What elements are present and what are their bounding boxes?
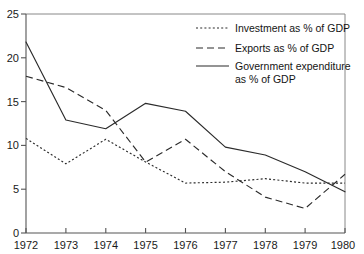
- y-tick-label: 0: [13, 227, 19, 239]
- y-axis-ticks: [21, 14, 26, 233]
- y-tick-label: 10: [7, 139, 19, 151]
- legend-label-investment: Investment as % of GDP: [235, 22, 350, 34]
- x-tick-label: 1976: [173, 239, 197, 251]
- x-tick-label: 1972: [14, 239, 38, 251]
- y-tick-label: 20: [7, 52, 19, 64]
- x-tick-label: 1978: [253, 239, 277, 251]
- y-tick-label: 15: [7, 96, 19, 108]
- x-axis-labels: 1972 1973 1974 1975 1976 1977 1978 1979 …: [14, 239, 355, 251]
- x-axis-ticks: [26, 228, 345, 233]
- line-chart: 25 20 15 10 5 0 1972 1973 1974 1975 1976: [0, 0, 364, 254]
- series-line-exports: [26, 76, 345, 208]
- x-tick-label: 1980: [331, 239, 355, 251]
- x-tick-label: 1974: [94, 239, 118, 251]
- legend-label-exports: Exports as % of GDP: [235, 42, 334, 54]
- x-tick-label: 1975: [133, 239, 157, 251]
- legend-label-government-expenditure-line1: Government expenditure: [235, 60, 351, 72]
- series-line-investment: [26, 138, 345, 183]
- legend-label-government-expenditure-line2: as % of GDP: [235, 73, 296, 85]
- y-axis-labels: 25 20 15 10 5 0: [7, 8, 19, 239]
- x-tick-label: 1979: [293, 239, 317, 251]
- chart-plot-area: 25 20 15 10 5 0 1972 1973 1974 1975 1976: [0, 0, 364, 254]
- y-tick-label: 5: [13, 183, 19, 195]
- x-tick-label: 1977: [213, 239, 237, 251]
- x-tick-label: 1973: [54, 239, 78, 251]
- y-tick-label: 25: [7, 8, 19, 20]
- chart-legend: Investment as % of GDP Exports as % of G…: [196, 22, 351, 85]
